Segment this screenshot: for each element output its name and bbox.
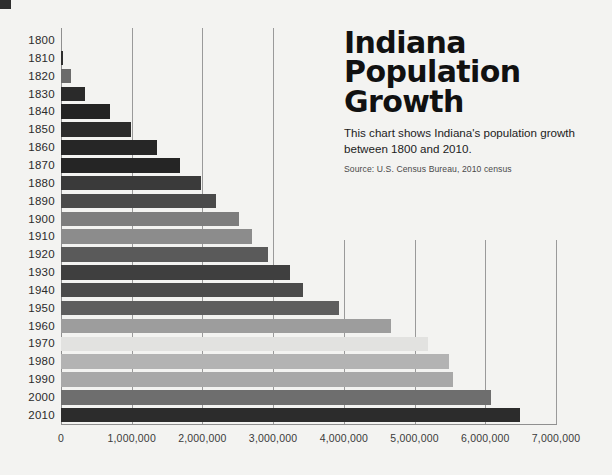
y-tick-1950: 1950 (7, 302, 55, 314)
y-tick-1920: 1920 (7, 248, 55, 260)
bar-2010 (61, 408, 520, 423)
bar-1920 (61, 247, 268, 262)
bar-1810 (61, 51, 63, 66)
x-tick-0: 0 (58, 432, 64, 444)
bar-1940 (61, 283, 303, 298)
bar-1870 (61, 158, 180, 173)
bar-1820 (61, 69, 71, 84)
y-tick-1910: 1910 (7, 230, 55, 242)
bar-1900 (61, 212, 239, 227)
title-line-3: Growth (344, 87, 594, 116)
y-tick-1810: 1810 (7, 52, 55, 64)
y-tick-1870: 1870 (7, 159, 55, 171)
y-tick-1830: 1830 (7, 88, 55, 100)
y-tick-1800: 1800 (7, 34, 55, 46)
y-tick-1990: 1990 (7, 373, 55, 385)
y-tick-1880: 1880 (7, 177, 55, 189)
bar-1910 (61, 229, 252, 244)
bar-1960 (61, 319, 391, 334)
chart-source: Source: U.S. Census Bureau, 2010 census (344, 164, 594, 174)
title-line-2: Population (344, 57, 594, 86)
page-title: Indiana Population Growth (344, 28, 594, 116)
y-tick-1960: 1960 (7, 320, 55, 332)
bar-1930 (61, 265, 290, 280)
y-tick-1970: 1970 (7, 337, 55, 349)
bar-1840 (61, 104, 110, 119)
y-tick-2010: 2010 (7, 409, 55, 421)
chart-page: 1800181018201830184018501860187018801890… (0, 0, 612, 475)
bar-1950 (61, 301, 339, 316)
y-axis-labels: 1800181018201830184018501860187018801890… (0, 0, 55, 475)
bar-1990 (61, 372, 453, 387)
x-axis-labels: 01,000,0002,000,0003,000,0004,000,0005,0… (0, 432, 612, 454)
y-tick-1860: 1860 (7, 141, 55, 153)
x-tick-4000000: 4,000,000 (320, 432, 369, 444)
y-tick-1940: 1940 (7, 284, 55, 296)
x-tick-7000000: 7,000,000 (532, 432, 581, 444)
x-tick-6000000: 6,000,000 (461, 432, 510, 444)
bar-2000 (61, 390, 491, 405)
y-tick-1930: 1930 (7, 266, 55, 278)
x-tick-5000000: 5,000,000 (390, 432, 439, 444)
title-line-1: Indiana (344, 28, 594, 57)
bar-1890 (61, 194, 216, 209)
bar-1880 (61, 176, 201, 191)
gridline-7000000 (556, 240, 557, 424)
chart-subtitle: This chart shows Indiana's population gr… (344, 125, 586, 156)
bar-1980 (61, 354, 449, 369)
bar-1860 (61, 140, 157, 155)
x-tick-3000000: 3,000,000 (249, 432, 298, 444)
bar-1970 (61, 337, 428, 352)
y-tick-2000: 2000 (7, 391, 55, 403)
y-tick-1850: 1850 (7, 123, 55, 135)
y-tick-1900: 1900 (7, 213, 55, 225)
bar-1850 (61, 122, 131, 137)
x-tick-2000000: 2,000,000 (178, 432, 227, 444)
x-axis-baseline (61, 424, 557, 425)
y-tick-1890: 1890 (7, 195, 55, 207)
y-tick-1980: 1980 (7, 355, 55, 367)
y-tick-1820: 1820 (7, 70, 55, 82)
y-tick-1840: 1840 (7, 105, 55, 117)
x-tick-1000000: 1,000,000 (107, 432, 156, 444)
bar-1830 (61, 87, 85, 102)
